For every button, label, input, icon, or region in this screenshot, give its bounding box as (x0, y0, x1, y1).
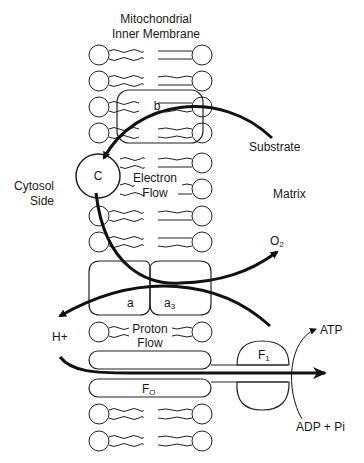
f1-lower (237, 382, 289, 410)
lipid-row (89, 206, 212, 226)
substrate-arrow (104, 107, 272, 158)
proton-flow-line-2: Flow (125, 336, 175, 350)
label-a: a (127, 296, 134, 310)
fo-upper-bar (89, 351, 211, 369)
f1-label: F1 (258, 348, 270, 366)
lipid-row (89, 45, 212, 65)
proton-flow-line-1: Proton (125, 322, 175, 336)
adp-pi-label: ADP + Pi (296, 420, 345, 434)
title-line-1: Mitochondrial (96, 12, 216, 26)
electron-flow-line-2: Flow (130, 186, 180, 200)
f0-label: FO (142, 382, 156, 400)
lipid-row (89, 431, 212, 451)
diagram-graphics (0, 0, 364, 463)
title-line-2: Inner Membrane (96, 27, 216, 41)
atp-label: ATP (320, 323, 342, 337)
substrate-label: Substrate (249, 140, 300, 154)
label-a3: a3 (164, 296, 175, 314)
label-c: C (90, 169, 106, 183)
label-b: b (150, 99, 164, 113)
lipid-row (120, 153, 212, 173)
o2-label: O2 (270, 234, 284, 252)
matrix-label: Matrix (273, 187, 306, 201)
lipid-row (89, 404, 212, 424)
cytochrome-b (117, 90, 203, 143)
lipid-row (89, 123, 212, 143)
lipid-row (89, 71, 212, 91)
cytosol-side-line-2: Side (10, 194, 54, 208)
mitochondrial-membrane-diagram: Mitochondrial Inner Membrane b C Electro… (0, 0, 364, 463)
h-plus-label: H+ (52, 330, 68, 344)
cytosol-side-line-1: Cytosol (10, 179, 54, 193)
electron-flow-line-1: Electron (130, 171, 180, 185)
